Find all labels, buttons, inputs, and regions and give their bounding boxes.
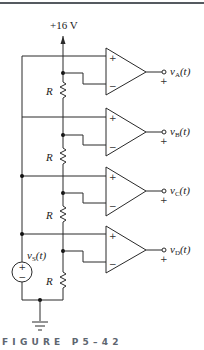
svg-text:+: + [160,76,168,86]
ground-icon [32,300,48,330]
output-terminal [162,248,166,252]
svg-text:−: − [109,81,117,91]
resistor-label: R [45,151,53,163]
opamp-d: + − + [106,226,168,273]
circuit-figure: +16 V [0,0,204,350]
output-label-a: vA(t) [170,65,191,79]
source-plus-sign: + [19,262,27,272]
resistor-label: R [45,275,53,287]
resistor-2 [58,146,68,166]
figure-caption: FIGURE P5–42 [2,337,123,347]
svg-text:+: + [109,53,117,63]
svg-text:+: + [160,254,168,264]
output-terminal [162,130,166,134]
supply-arrow-icon [61,36,66,300]
source-minus-sign: − [19,272,27,282]
svg-text:−: − [109,201,117,211]
output-terminal [162,70,166,74]
wire-minus-c [61,191,106,203]
svg-text:+: + [160,195,168,205]
output-label-b: vB(t) [170,125,190,139]
resistor-label: R [45,209,53,221]
wire-minus-b [61,133,106,145]
opamp-a: + − + [106,48,168,95]
opamp-b: + − + [106,108,168,156]
output-label-c: vC(t) [170,184,190,198]
svg-text:−: − [109,142,117,152]
resistor-3 [58,204,68,224]
svg-text:+: + [160,136,168,146]
svg-text:+: + [109,231,117,241]
wire-minus-d [61,249,106,262]
output-label-d: vD(t) [170,243,191,257]
opamp-c: + − + [106,167,168,216]
svg-text:+: + [109,113,117,123]
resistor-1 [58,80,68,100]
junction-dot [20,174,24,178]
resistor-label: R [45,85,53,97]
output-terminal [162,189,166,193]
resistor-4 [58,270,68,290]
svg-text:+: + [109,172,117,182]
supply-label: +16 V [50,19,78,31]
voltage-source: + − [12,262,32,282]
source-label: vS(t) [27,249,47,263]
junction-dot [20,232,24,236]
circuit-diagram: +16 V [0,0,204,350]
svg-text:−: − [109,259,117,269]
